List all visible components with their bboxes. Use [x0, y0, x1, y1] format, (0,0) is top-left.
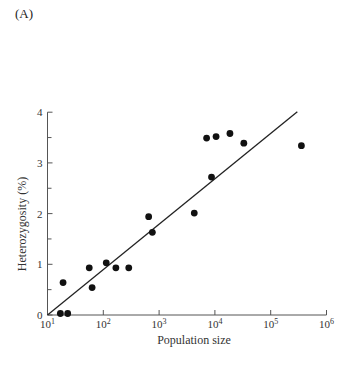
y-tick-label: 4 — [37, 106, 43, 118]
y-axis-title: Heterozygosity (%) — [15, 177, 29, 271]
y-tick-label: 3 — [37, 157, 43, 169]
axes: 01234101102103104105106 — [37, 106, 334, 330]
data-point — [60, 279, 67, 286]
y-tick-label: 2 — [37, 208, 43, 220]
data-point — [89, 284, 96, 291]
data-point — [227, 130, 234, 137]
data-point — [149, 229, 156, 236]
data-point — [112, 264, 119, 271]
data-point — [103, 259, 110, 266]
data-point — [64, 310, 71, 317]
data-point — [191, 210, 198, 217]
fit-line — [48, 112, 298, 315]
x-tick-label: 105 — [263, 317, 278, 330]
x-axis-title: Population size — [157, 333, 231, 347]
data-points — [57, 130, 305, 317]
x-tick-label: 103 — [152, 317, 167, 330]
regression-line — [48, 112, 298, 315]
x-tick-label: 104 — [207, 317, 222, 330]
x-tick-label: 102 — [96, 317, 111, 330]
data-point — [208, 174, 215, 181]
data-point — [203, 135, 210, 142]
data-point — [86, 264, 93, 271]
data-point — [240, 140, 247, 147]
data-point — [57, 310, 64, 317]
scatter-chart: 01234101102103104105106 Population size … — [0, 0, 355, 370]
y-tick-label: 1 — [37, 258, 43, 270]
data-point — [125, 264, 132, 271]
data-point — [213, 133, 220, 140]
x-tick-label: 101 — [40, 317, 55, 330]
data-point — [298, 142, 305, 149]
x-tick-label: 106 — [319, 317, 334, 330]
data-point — [145, 213, 152, 220]
